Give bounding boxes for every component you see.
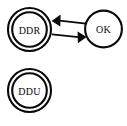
edge-ddr-to-ok[interactable] <box>52 31 87 43</box>
state-diagram-canvas: DDR OK DDU <box>0 0 127 126</box>
edge-ddr-to-ok-line <box>52 34 79 37</box>
node-ddu-label: DDU <box>18 86 41 97</box>
node-ok-label: OK <box>96 24 111 35</box>
state-diagram: DDR OK DDU <box>0 0 127 126</box>
node-ok[interactable]: OK <box>85 11 122 48</box>
node-ddr[interactable]: DDR <box>8 8 51 51</box>
node-ddr-label: DDR <box>19 25 41 36</box>
node-ddu[interactable]: DDU <box>8 69 51 112</box>
edge-ok-to-ddr[interactable] <box>52 15 86 27</box>
edge-ok-to-ddr-line <box>60 21 87 24</box>
edge-ok-to-ddr-arrowhead-icon <box>52 15 61 27</box>
